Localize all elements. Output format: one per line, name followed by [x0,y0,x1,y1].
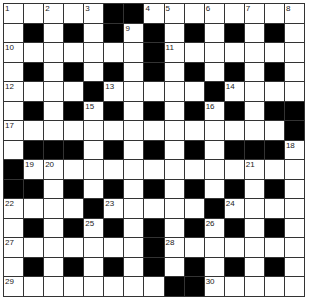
crossword-cell[interactable] [124,43,143,62]
crossword-cell[interactable] [225,4,244,23]
crossword-cell[interactable] [225,238,244,257]
crossword-cell[interactable]: 28 [165,238,184,257]
crossword-cell[interactable] [124,121,143,140]
crossword-cell[interactable]: 25 [84,219,103,238]
crossword-cell[interactable] [84,24,103,43]
crossword-cell[interactable]: 9 [124,24,143,43]
crossword-cell[interactable] [124,277,143,296]
crossword-cell[interactable]: 19 [24,160,43,179]
crossword-cell[interactable] [245,102,264,121]
crossword-cell[interactable] [124,160,143,179]
crossword-cell[interactable] [44,258,63,277]
crossword-cell[interactable]: 22 [4,199,23,218]
crossword-cell[interactable] [225,43,244,62]
crossword-cell[interactable] [245,121,264,140]
crossword-cell[interactable] [124,219,143,238]
crossword-cell[interactable] [225,277,244,296]
crossword-cell[interactable] [165,63,184,82]
crossword-cell[interactable] [265,238,284,257]
crossword-cell[interactable] [84,63,103,82]
crossword-cell[interactable] [245,258,264,277]
crossword-cell[interactable] [44,82,63,101]
crossword-cell[interactable] [44,238,63,257]
crossword-cell[interactable] [245,219,264,238]
crossword-cell[interactable] [285,277,304,296]
crossword-cell[interactable] [84,43,103,62]
crossword-cell[interactable] [165,102,184,121]
crossword-cell[interactable] [104,160,123,179]
crossword-cell[interactable] [44,63,63,82]
crossword-cell[interactable] [124,141,143,160]
crossword-cell[interactable] [144,121,163,140]
crossword-cell[interactable] [124,180,143,199]
crossword-cell[interactable] [64,4,83,23]
crossword-cell[interactable] [165,258,184,277]
crossword-cell[interactable] [165,82,184,101]
crossword-cell[interactable] [84,141,103,160]
crossword-cell[interactable] [165,141,184,160]
crossword-cell[interactable] [64,43,83,62]
crossword-cell[interactable] [285,43,304,62]
crossword-cell[interactable] [245,24,264,43]
crossword-cell[interactable] [285,219,304,238]
crossword-cell[interactable] [24,82,43,101]
crossword-cell[interactable] [245,277,264,296]
crossword-cell[interactable] [24,121,43,140]
crossword-cell[interactable] [4,219,23,238]
crossword-cell[interactable]: 30 [205,277,224,296]
crossword-cell[interactable] [185,121,204,140]
crossword-cell[interactable] [84,277,103,296]
crossword-cell[interactable] [144,277,163,296]
crossword-cell[interactable] [124,82,143,101]
crossword-cell[interactable] [4,102,23,121]
crossword-cell[interactable] [144,160,163,179]
crossword-cell[interactable] [205,24,224,43]
crossword-cell[interactable] [265,43,284,62]
crossword-cell[interactable] [84,258,103,277]
crossword-cell[interactable] [205,121,224,140]
crossword-cell[interactable] [205,180,224,199]
crossword-cell[interactable] [44,43,63,62]
crossword-cell[interactable] [245,199,264,218]
crossword-cell[interactable] [124,258,143,277]
crossword-cell[interactable] [104,121,123,140]
crossword-cell[interactable] [124,102,143,121]
crossword-cell[interactable] [44,199,63,218]
crossword-cell[interactable]: 17 [4,121,23,140]
crossword-cell[interactable] [265,121,284,140]
crossword-cell[interactable]: 16 [205,102,224,121]
crossword-cell[interactable] [4,24,23,43]
crossword-cell[interactable] [185,199,204,218]
crossword-cell[interactable] [44,24,63,43]
crossword-cell[interactable] [104,277,123,296]
crossword-cell[interactable]: 13 [104,82,123,101]
crossword-cell[interactable] [245,238,264,257]
crossword-cell[interactable] [205,258,224,277]
crossword-cell[interactable] [205,43,224,62]
crossword-cell[interactable] [185,160,204,179]
crossword-cell[interactable] [165,24,184,43]
crossword-cell[interactable] [285,24,304,43]
crossword-cell[interactable] [285,160,304,179]
crossword-cell[interactable] [185,4,204,23]
crossword-cell[interactable] [265,277,284,296]
crossword-cell[interactable] [265,199,284,218]
crossword-cell[interactable]: 5 [165,4,184,23]
crossword-cell[interactable] [185,43,204,62]
crossword-cell[interactable] [245,82,264,101]
crossword-cell[interactable] [64,121,83,140]
crossword-cell[interactable] [285,180,304,199]
crossword-cell[interactable] [124,238,143,257]
crossword-cell[interactable] [144,199,163,218]
crossword-cell[interactable] [4,258,23,277]
crossword-cell[interactable] [285,258,304,277]
crossword-cell[interactable] [265,82,284,101]
crossword-cell[interactable] [245,63,264,82]
crossword-cell[interactable]: 20 [44,160,63,179]
crossword-cell[interactable]: 18 [285,141,304,160]
crossword-cell[interactable] [165,180,184,199]
crossword-cell[interactable] [104,43,123,62]
crossword-cell[interactable] [4,63,23,82]
crossword-cell[interactable] [44,121,63,140]
crossword-cell[interactable] [245,43,264,62]
